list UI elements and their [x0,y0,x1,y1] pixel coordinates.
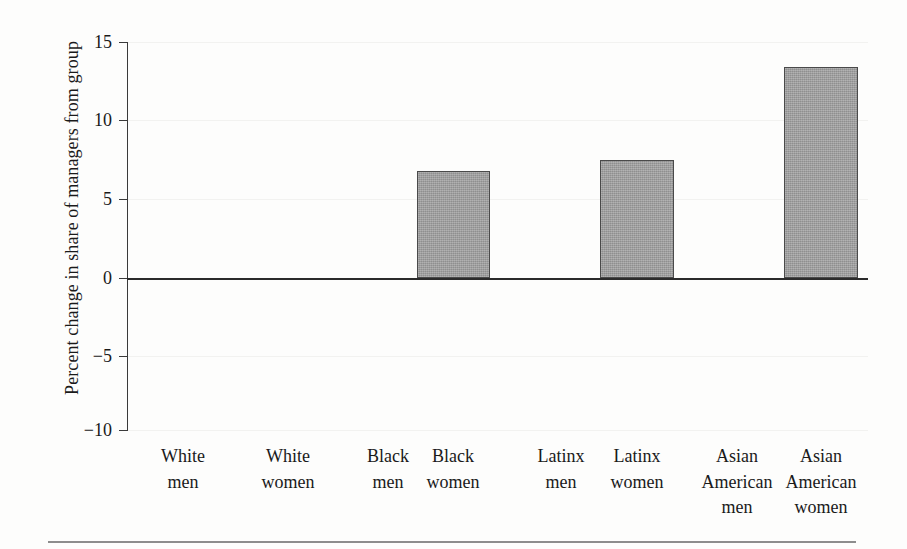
x-label-line: White [232,444,344,470]
gridline [127,42,868,43]
x-label-line: White [127,444,239,470]
x-label-line: women [397,470,509,496]
plot-area [127,42,868,430]
bar-asian-american-women [784,67,858,278]
x-label-line: women [232,470,344,496]
chart-figure: Percent change in share of managers from… [0,0,907,549]
y-tick-mark [119,430,127,431]
y-tick-label: 0 [52,268,112,289]
y-axis-tick-labels: 15 10 5 0 −5 −10 [42,0,112,549]
zero-baseline [127,278,868,280]
y-axis-spine [127,42,128,431]
y-tick-label: 5 [52,189,112,210]
x-label-line: women [761,495,881,521]
y-tick-mark [119,356,127,357]
y-tick-label: −10 [52,420,112,441]
y-tick-mark [119,42,127,43]
gridline [127,430,868,431]
x-label-white-men: White men [127,444,239,495]
x-label-line: men [127,470,239,496]
bar-black-women [417,171,490,278]
x-label-white-women: White women [232,444,344,495]
x-label-black-women: Black women [397,444,509,495]
y-tick-label: 15 [52,32,112,53]
gridline [127,120,868,121]
bar-latinx-women [600,160,674,278]
bottom-rule [48,541,856,543]
x-label-line: Asian [761,444,881,470]
y-tick-mark [119,120,127,121]
gridline [127,199,868,200]
x-label-line: Black [397,444,509,470]
x-label-line: American [761,470,881,496]
y-tick-mark [119,278,127,279]
y-tick-mark [119,199,127,200]
y-tick-label: −5 [52,346,112,367]
x-label-asian-american-women: Asian American women [761,444,881,521]
gridline [127,356,868,357]
x-axis-labels: White men White women Black men Black wo… [127,444,868,539]
y-tick-label: 10 [52,110,112,131]
